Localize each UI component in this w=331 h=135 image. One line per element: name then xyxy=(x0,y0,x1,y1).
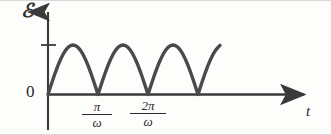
origin-label-zero: 0 xyxy=(26,83,35,100)
y-axis-label-emf: ℰ xyxy=(21,1,34,20)
x-tick-label-2pi-over-omega: 2π ω xyxy=(129,99,167,128)
x-axis-label-t: t xyxy=(306,104,310,119)
fraction-denominator: ω xyxy=(81,115,113,129)
fraction-numerator: π xyxy=(81,100,113,114)
rectified-sine-curve xyxy=(48,45,220,95)
emf-time-graph-figure: ℰ 0 t π ω 2π ω xyxy=(0,0,331,135)
fraction-numerator: 2π xyxy=(129,99,167,113)
x-tick-label-pi-over-omega: π ω xyxy=(81,100,113,129)
fraction-denominator: ω xyxy=(129,114,167,128)
